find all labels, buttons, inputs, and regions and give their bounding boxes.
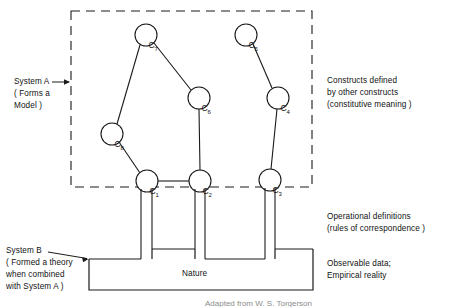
node-c8-subscript: 8: [121, 145, 124, 151]
node-c1-label: C1: [140, 175, 159, 211]
edge-c7-c8: [117, 45, 140, 124]
node-c7-subscript: 7: [155, 46, 158, 52]
operational-label-line2: (rules of correspondence ): [327, 224, 425, 235]
system-a-label-line3: Model ): [14, 101, 42, 112]
observable-label-line2: Empirical reality: [327, 271, 386, 282]
system-a-label-line2: ( Forms a: [14, 89, 50, 100]
figure-caption: Adapted from W. S. Torgerson: [205, 300, 312, 307]
node-c7-label: C7: [139, 29, 158, 65]
node-c3-subscript: 3: [279, 191, 282, 197]
constructs-label-line3: (constitutive meaning ): [327, 100, 412, 111]
node-c1-subscript: 1: [156, 192, 159, 198]
system-a-arrow: [52, 79, 70, 84]
system-b-label-line3: when combined: [6, 270, 65, 281]
constructs-label-line1: Constructs defined: [327, 76, 397, 87]
edge-c7-c6: [154, 43, 191, 90]
system-b-label-line2: ( Formed a theory: [6, 258, 73, 269]
node-c2-label: C2: [193, 175, 212, 211]
figure-caption-strip: Adapted from W. S. Torgerson: [0, 300, 451, 307]
node-c3-label: C3: [263, 174, 282, 210]
operational-label-line1: Operational definitions: [327, 212, 411, 223]
node-c4-subscript: 4: [287, 109, 290, 115]
node-c4-label: C4: [271, 92, 290, 128]
system-b-label-line4: with System A ): [6, 282, 63, 293]
node-c6-label: C6: [192, 92, 211, 128]
node-c5-subscript: 5: [255, 46, 258, 52]
node-c6-subscript: 6: [208, 109, 211, 115]
diagram-canvas: C1 C2 C3 C4 C5 C6 C7 C8 Nature System A …: [0, 0, 451, 307]
system-a-label-line1: System A: [14, 77, 49, 88]
node-c5-label: C5: [239, 29, 258, 65]
observable-label-line1: Observable data;: [327, 259, 391, 270]
constructs-label-line2: by other constructs: [327, 88, 398, 99]
nature-box-label: Nature: [182, 269, 207, 280]
node-c8-label: C8: [105, 128, 124, 164]
node-c2-subscript: 2: [209, 192, 212, 198]
system-b-label-line1: System B: [6, 246, 42, 257]
